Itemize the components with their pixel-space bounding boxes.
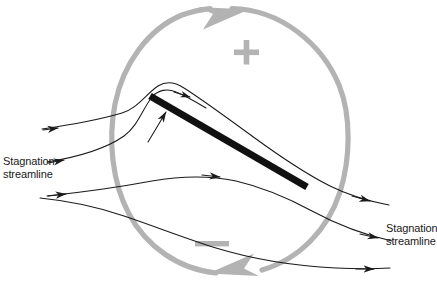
stagnation-label-right-line1: Stagnation: [386, 222, 437, 235]
circulation-arrowhead-top: [198, 7, 249, 30]
minus-sign-icon: [195, 241, 229, 246]
stagnation-label-left-line1: Stagnation: [3, 155, 55, 168]
flat-plate: [150, 96, 307, 187]
stagnation-streamline-label-right: Stagnation streamline: [386, 222, 437, 248]
plus-sign-icon: [234, 40, 259, 65]
streamline-stagnation-upper: [47, 90, 206, 162]
stagnation-label-left-line2: streamline: [3, 168, 55, 181]
streamline-stagnation-upper-arrow-mid: [174, 92, 190, 97]
circulation-arc-right: [232, 9, 348, 271]
figure-container: Stagnation streamline Stagnation streaml…: [0, 0, 437, 284]
stagnation-streamline-label-left: Stagnation streamline: [3, 155, 55, 181]
streamline-lower-outer: [40, 198, 390, 269]
stagnation-label-right-line2: streamline: [386, 235, 437, 248]
circulation-arc-left: [112, 9, 216, 273]
stagnation-point-arrow: [148, 112, 166, 142]
stagnation-streamline-diagram: [0, 0, 437, 284]
streamline-stagnation-lower-arrow-in: [48, 194, 66, 196]
streamline-upper-outer-arrow-out: [352, 196, 370, 201]
streamline-upper-outer: [42, 83, 389, 205]
